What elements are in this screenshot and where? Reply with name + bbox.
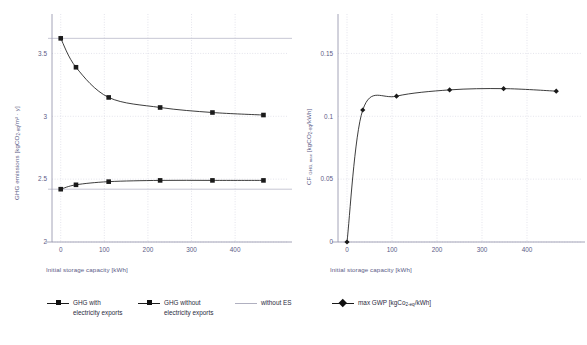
series-line (347, 89, 556, 242)
chart-panel-right: 010020030040000.050.10.15 CF GHG, max [k… (294, 0, 587, 290)
y-tick-label: 2.5 (38, 175, 47, 182)
legend-marker-square-icon (47, 299, 69, 307)
data-point-marker (158, 105, 163, 110)
legend-label-ghg-with-exports: GHG with electricity exports (73, 298, 127, 317)
y-tick-label: 0.1 (324, 113, 333, 120)
data-point-marker (74, 65, 79, 70)
data-point-marker (447, 87, 452, 92)
legend-item-ghg-without-exports[interactable]: GHG without electricity exports (138, 298, 223, 317)
data-point-marker (58, 187, 63, 192)
y-tick-label: 2 (43, 238, 47, 245)
legend-item-without-es[interactable]: without ES (235, 298, 325, 308)
legend-label-without-es: without ES (261, 298, 292, 308)
plot-area-right: 010020030040000.050.10.15 (294, 0, 587, 290)
data-point-marker (394, 94, 399, 99)
data-point-marker (210, 110, 215, 115)
x-tick-label: 300 (477, 246, 488, 253)
data-point-marker (360, 107, 365, 112)
data-point-marker (158, 178, 163, 183)
x-tick-label: 0 (59, 246, 63, 253)
plot-area-left: 010020030040022.533.5 (0, 0, 294, 290)
x-tick-label: 100 (387, 246, 398, 253)
data-point-marker (261, 113, 266, 118)
x-tick-label: 400 (230, 246, 241, 253)
legend-item-ghg-with-exports[interactable]: GHG with electricity exports (47, 298, 127, 317)
figure-two-panel-chart: 010020030040022.533.5 GHG emissions [kgC… (0, 0, 587, 345)
x-tick-label: 400 (522, 246, 533, 253)
chart-panel-left: 010020030040022.533.5 GHG emissions [kgC… (0, 0, 294, 290)
chart-legend: GHG with electricity exports GHG without… (0, 292, 587, 345)
y-tick-label: 0 (329, 238, 333, 245)
legend-label-max-gwp: max GWP [kgCo2-eq/kWh] (358, 298, 431, 310)
x-tick-label: 300 (186, 246, 197, 253)
legend-marker-square-icon (138, 299, 160, 307)
y-axis-label-left: GHG emissions [kgCO2-eq/m² · y] (13, 106, 21, 200)
data-point-marker (106, 179, 111, 184)
data-point-marker (58, 36, 63, 41)
data-point-marker (74, 183, 79, 188)
y-tick-label: 3.5 (38, 50, 47, 57)
legend-marker-diamond-icon (332, 299, 354, 307)
x-tick-label: 0 (345, 246, 349, 253)
y-tick-label: 0.05 (321, 175, 334, 182)
data-point-marker (210, 178, 215, 183)
y-tick-label: 3 (43, 113, 47, 120)
data-point-marker (344, 239, 349, 244)
series-line (61, 38, 264, 115)
y-tick-label: 0.15 (321, 50, 334, 57)
x-tick-label: 200 (432, 246, 443, 253)
x-tick-label: 200 (143, 246, 154, 253)
legend-label-ghg-without-exports: GHG without electricity exports (164, 298, 223, 317)
x-axis-label-left: Initial storage capacity [kWh] (46, 266, 128, 273)
data-point-marker (501, 86, 506, 91)
legend-item-max-gwp[interactable]: max GWP [kgCo2-eq/kWh] (332, 298, 522, 310)
legend-line-plain-icon (235, 299, 257, 307)
data-point-marker (261, 178, 266, 183)
data-point-marker (106, 95, 111, 100)
data-point-marker (554, 89, 559, 94)
y-axis-label-right: CF GHG, max [kgCO2-eq/kWh] (305, 109, 313, 185)
x-axis-label-right: Initial storage capacity [kWh] (330, 266, 412, 273)
x-tick-label: 100 (99, 246, 110, 253)
